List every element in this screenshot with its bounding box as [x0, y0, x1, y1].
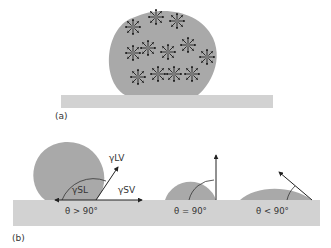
case-wetting: [240, 172, 312, 200]
molecule-icon: [180, 37, 196, 53]
theta-equal-label: θ = 90°: [174, 206, 207, 216]
molecule-icon: [125, 19, 141, 35]
gamma-sv-label: γSV: [118, 185, 136, 195]
theta-greater-label: θ > 90°: [65, 206, 98, 216]
droplet-medium: [165, 182, 216, 200]
panel-b-label: (b): [12, 233, 25, 243]
panel-a-label: (a): [55, 111, 68, 121]
panel-b: γLV γSL γSV θ > 90° θ = 90° θ < 90°: [13, 142, 320, 226]
molecule-icon: [130, 69, 146, 85]
case-neutral: [165, 155, 216, 200]
theta-less-label: θ < 90°: [256, 206, 289, 216]
molecule-icon: [125, 45, 141, 61]
molecule-icon: [160, 44, 176, 60]
molecule-icon: [148, 9, 164, 25]
molecule-icon: [199, 49, 215, 65]
molecule-icon: [150, 66, 166, 82]
molecule-icon: [166, 66, 182, 82]
molecule-icon: [184, 66, 200, 82]
contact-angle-diagram: γLV γSL γSV θ > 90° θ = 90° θ < 90°: [0, 0, 331, 248]
gamma-lv-label: γLV: [109, 153, 125, 163]
gamma-sl-label: γSL: [72, 185, 88, 195]
substrate-a: [61, 95, 273, 108]
molecule-icon: [169, 13, 185, 29]
molecule-icon: [140, 40, 156, 56]
droplet-large: [33, 142, 104, 200]
panel-a: [61, 9, 273, 108]
